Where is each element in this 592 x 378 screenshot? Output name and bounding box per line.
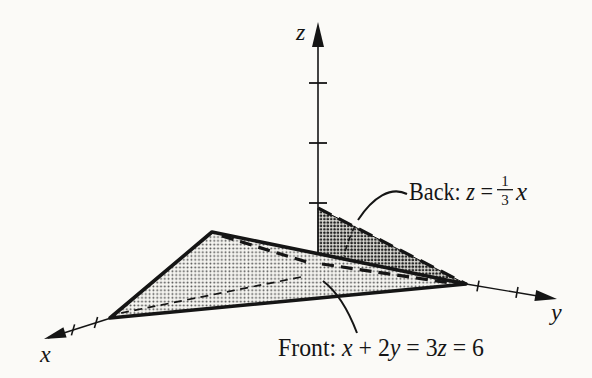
y-axis-label: y	[549, 299, 562, 325]
front-label-part: x	[341, 334, 353, 361]
back-label-fraction-numerator: 1	[501, 173, 509, 189]
back-label-fraction-denominator: 3	[501, 192, 509, 208]
z-axis-label: z	[295, 19, 306, 45]
front-plane-label: Front: x + 2y = 3z = 6	[278, 334, 484, 361]
front-label-part: Front:	[278, 334, 342, 361]
back-label-equals: =	[475, 178, 493, 205]
back-label-var-z: z	[465, 178, 475, 205]
figure-background	[0, 0, 592, 378]
front-label-part: + 2	[353, 334, 390, 361]
x-axis-label: x	[39, 341, 51, 367]
back-label-prefix: Back:	[409, 178, 466, 205]
back-label-var-x: x	[515, 178, 527, 205]
plane-intersection-figure: z x y Back: z = 1 3 x Front: x + 2y = 3z…	[0, 0, 592, 378]
front-label-part: z	[437, 334, 447, 361]
front-label-part: y	[387, 334, 401, 361]
front-label-part: = 3	[400, 334, 437, 361]
figure-canvas: z x y Back: z = 1 3 x Front: x + 2y = 3z…	[0, 0, 592, 378]
back-plane-label: Back: z =	[409, 178, 493, 205]
front-label-part: = 6	[447, 334, 484, 361]
